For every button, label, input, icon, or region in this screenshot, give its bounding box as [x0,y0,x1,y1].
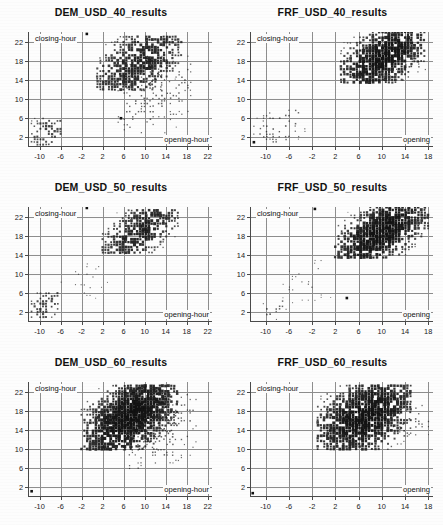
y-tick-label: 10 [15,445,23,454]
plot-area: -10-6-226101418222610141822closing-houro… [28,32,212,147]
y-tick-label: 10 [237,270,245,279]
x-tick-mark [266,146,267,150]
x-tick-label: -2 [78,327,85,336]
chart-title: DEM_USD_50_results [0,181,222,193]
x-tick-mark [166,146,167,150]
x-tick-label: 18 [183,327,191,336]
chart-title: FRF_USD_60_results [222,356,443,368]
plot-area: -10-6-2261014182610141822closing-hourope… [250,32,433,147]
chart-panel: DEM_USD_60_results-10-6-2261014182226101… [0,350,222,525]
x-tick-mark [266,321,267,325]
x-tick-label: -6 [286,152,293,161]
x-tick-label: 10 [378,327,386,336]
chart-panel: FRF_USD_60_results-10-6-2261014182610141… [222,350,443,525]
x-tick-label: 18 [424,152,432,161]
x-tick-mark [428,321,429,325]
x-tick-label: 14 [162,327,170,336]
scatter-layer [29,207,212,321]
y-axis-label: closing-hour [34,209,77,218]
x-tick-mark [382,146,383,150]
x-axis-label: opening-hour [163,485,210,494]
x-tick-label: 10 [141,152,149,161]
x-tick-mark [289,321,290,325]
x-tick-mark [145,321,146,325]
x-axis-label: opening-hour [163,310,210,319]
x-tick-mark [166,496,167,500]
y-tick-label: 10 [15,270,23,279]
x-tick-mark [103,496,104,500]
x-tick-label: -6 [286,327,293,336]
x-tick-label: 10 [378,152,386,161]
x-axis-label: opening-hour [163,135,210,144]
x-tick-mark [82,146,83,150]
x-tick-mark [103,146,104,150]
scatter-layer [251,32,433,146]
y-tick-label: 18 [237,231,245,240]
x-tick-mark [124,146,125,150]
y-axis-label: closing-hour [34,34,77,43]
x-tick-label: -6 [286,502,293,511]
x-tick-label: 22 [204,152,212,161]
x-tick-label: 22 [204,327,212,336]
y-tick-label: 6 [241,114,245,123]
x-tick-label: 6 [122,502,126,511]
x-tick-mark [82,321,83,325]
x-tick-label: -2 [78,502,85,511]
y-tick-label: 10 [15,95,23,104]
chart-panel: FRF_USD_50_results-10-6-2261014182610141… [222,175,443,350]
x-tick-mark [61,321,62,325]
y-tick-label: 22 [15,387,23,396]
x-tick-label: 18 [424,327,432,336]
x-tick-mark [335,321,336,325]
plot-area: -10-6-226101418222610141822closing-houro… [28,207,212,322]
chart-title: FRF_USD_50_results [222,181,443,193]
x-tick-label: -6 [57,152,64,161]
x-tick-label: -6 [57,502,64,511]
x-tick-mark [61,146,62,150]
chart-title: FRF_USD_40_results [222,6,443,18]
x-tick-label: 14 [401,502,409,511]
y-axis-label: closing-hour [256,384,299,393]
x-tick-label: -10 [34,152,45,161]
x-tick-label: -6 [57,327,64,336]
x-tick-label: 14 [401,327,409,336]
chart-panel: DEM_USD_50_results-10-6-2261014182226101… [0,175,222,350]
chart-panel: DEM_USD_40_results-10-6-2261014182226101… [0,0,222,175]
x-tick-mark [428,146,429,150]
figure-page: DEM_USD_40_results-10-6-2261014182226101… [0,0,443,525]
x-tick-mark [428,496,429,500]
x-tick-label: 22 [204,502,212,511]
x-tick-mark [124,496,125,500]
y-tick-label: 22 [15,212,23,221]
x-tick-label: 6 [356,502,360,511]
plot-area: -10-6-226101418222610141822closing-houro… [28,382,212,497]
x-tick-mark [289,146,290,150]
x-tick-mark [208,496,209,500]
x-tick-label: 10 [141,327,149,336]
x-axis-label: opening [402,135,431,144]
x-tick-label: 2 [333,327,337,336]
x-tick-mark [103,321,104,325]
x-tick-mark [359,146,360,150]
x-tick-mark [335,496,336,500]
y-tick-label: 14 [15,250,23,259]
y-tick-label: 2 [19,133,23,142]
y-axis-label: closing-hour [256,209,299,218]
y-tick-label: 2 [241,308,245,317]
y-tick-label: 14 [15,75,23,84]
x-axis-label: opening [402,485,431,494]
x-tick-mark [359,496,360,500]
y-tick-label: 14 [237,75,245,84]
x-tick-label: 2 [101,502,105,511]
y-tick-label: 18 [15,231,23,240]
y-tick-label: 6 [19,464,23,473]
y-tick-label: 22 [237,37,245,46]
x-tick-mark [40,146,41,150]
y-tick-label: 10 [237,95,245,104]
chart-title: DEM_USD_60_results [0,356,222,368]
x-tick-mark [124,321,125,325]
x-tick-mark [40,496,41,500]
y-tick-label: 18 [15,56,23,65]
x-tick-mark [266,496,267,500]
scatter-layer [29,382,212,496]
